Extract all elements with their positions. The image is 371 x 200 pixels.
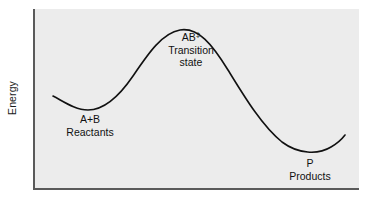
double-dagger-icon: ‡ xyxy=(196,30,200,39)
annotation-transition-state: AB‡ Transition state xyxy=(153,31,229,69)
reactants-species: A+B xyxy=(52,113,128,126)
transition-state-species: AB‡ xyxy=(153,31,229,44)
annotation-products: P Products xyxy=(272,157,348,182)
energy-diagram-figure: Energy AB‡ Transition state A+B Reactant… xyxy=(0,0,371,200)
products-species: P xyxy=(272,157,348,170)
products-caption: Products xyxy=(272,170,348,183)
annotation-reactants: A+B Reactants xyxy=(52,113,128,138)
transition-state-formula: AB xyxy=(182,31,196,43)
reactants-caption: Reactants xyxy=(52,126,128,139)
transition-state-caption-line1: Transition xyxy=(153,44,229,57)
transition-state-caption-line2: state xyxy=(153,56,229,69)
